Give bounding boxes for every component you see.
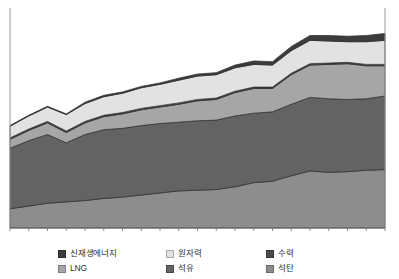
legend-label-hydro: 수력 (278, 249, 294, 258)
legend-swatch-renewable (58, 250, 66, 258)
area-series-group (10, 33, 385, 228)
legend-item-coal[interactable]: 석탄 (266, 264, 399, 273)
plot-area: 1995199719992001200320052007200920112013… (0, 0, 399, 232)
legend-label-lng: LNG (70, 264, 87, 273)
chart-legend: 신재생에너지 원자력 수력 LNG 석유 석탄 (0, 246, 399, 279)
legend-label-renewable: 신재생에너지 (70, 249, 117, 258)
stacked-area-chart: 1995199719992001200320052007200920112013… (0, 0, 399, 279)
legend-swatch-hydro (266, 250, 274, 258)
legend-item-hydro[interactable]: 수력 (266, 249, 399, 258)
legend-swatch-oil (166, 265, 174, 273)
legend-item-lng[interactable]: LNG (58, 264, 166, 273)
legend-label-nuclear: 원자력 (178, 249, 201, 258)
legend-swatch-coal (266, 265, 274, 273)
legend-item-nuclear[interactable]: 원자력 (166, 249, 266, 258)
legend-swatch-nuclear (166, 250, 174, 258)
legend-swatch-lng (58, 265, 66, 273)
legend-label-coal: 석탄 (278, 264, 294, 273)
chart-canvas: 1995199719992001200320052007200920112013… (0, 0, 399, 232)
x-axis-ticks (10, 228, 385, 231)
legend-item-oil[interactable]: 석유 (166, 264, 266, 273)
legend-label-oil: 석유 (178, 264, 194, 273)
legend-item-renewable[interactable]: 신재생에너지 (58, 249, 166, 258)
